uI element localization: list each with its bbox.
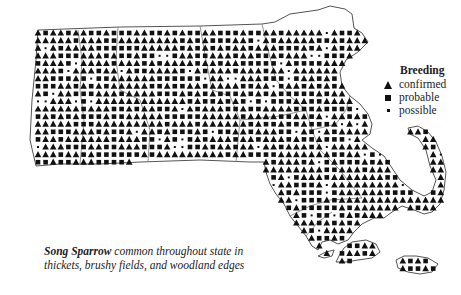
confirmed-marker — [248, 136, 255, 142]
confirmed-marker — [118, 98, 125, 104]
probable-marker — [195, 54, 200, 59]
possible-marker — [288, 78, 290, 80]
probable-marker — [195, 114, 200, 119]
confirmed-marker — [407, 197, 414, 203]
probable-marker — [119, 130, 124, 135]
confirmed-marker — [88, 105, 95, 111]
probable-marker — [294, 92, 299, 97]
confirmed-marker — [422, 197, 429, 203]
confirmed-marker — [73, 105, 80, 111]
confirmed-marker — [225, 60, 232, 66]
probable-marker — [127, 46, 132, 51]
confirmed-marker — [263, 143, 270, 149]
probable-marker — [119, 114, 124, 119]
confirmed-marker — [35, 67, 42, 73]
confirmed-marker — [286, 29, 293, 35]
confirmed-marker — [35, 128, 42, 134]
probable-marker — [226, 46, 231, 51]
confirmed-marker — [422, 204, 429, 210]
probable-marker — [317, 76, 322, 81]
confirmed-marker — [50, 121, 57, 127]
probable-marker — [309, 190, 314, 195]
probable-marker — [150, 145, 155, 150]
probable-marker — [317, 99, 322, 104]
probable-marker — [173, 54, 178, 59]
probable-marker — [142, 54, 147, 59]
probable-marker — [180, 84, 185, 89]
probable-marker — [119, 46, 124, 51]
probable-marker — [218, 38, 223, 43]
confirmed-marker — [316, 143, 323, 149]
confirmed-marker — [248, 75, 255, 81]
probable-marker — [112, 38, 117, 43]
confirmed-marker — [164, 128, 171, 134]
confirmed-marker — [88, 136, 95, 142]
confirmed-marker — [96, 98, 103, 104]
confirmed-marker — [103, 121, 110, 127]
confirmed-marker — [134, 75, 141, 81]
probable-marker — [309, 107, 314, 112]
confirmed-marker — [293, 29, 300, 35]
probable-marker — [309, 206, 314, 211]
confirmed-marker — [324, 98, 331, 104]
confirmed-marker — [172, 151, 179, 157]
probable-marker — [279, 76, 284, 81]
confirmed-marker — [400, 265, 407, 271]
probable-marker — [43, 92, 48, 97]
confirmed-marker — [346, 174, 353, 180]
possible-marker — [440, 154, 442, 156]
confirmed-marker — [202, 121, 209, 127]
confirmed-marker — [50, 67, 57, 73]
confirmed-marker — [286, 52, 293, 58]
confirmed-marker — [354, 143, 361, 149]
probable-marker — [150, 137, 155, 142]
probable-marker — [150, 54, 155, 59]
possible-marker — [326, 32, 328, 34]
confirmed-marker — [35, 75, 42, 81]
probable-marker — [188, 76, 193, 81]
confirmed-marker — [88, 67, 95, 73]
probable-marker — [256, 137, 261, 142]
confirmed-marker — [96, 143, 103, 149]
confirmed-marker — [354, 166, 361, 172]
probable-marker — [340, 152, 345, 157]
possible-marker — [189, 70, 191, 72]
confirmed-marker — [316, 45, 323, 51]
confirmed-marker — [240, 75, 247, 81]
probable-marker — [188, 114, 193, 119]
confirmed-marker — [210, 151, 217, 157]
confirmed-marker — [369, 181, 376, 187]
probable-marker — [211, 99, 216, 104]
confirmed-marker — [240, 105, 247, 111]
confirmed-marker — [164, 98, 171, 104]
confirmed-marker — [278, 174, 285, 180]
confirmed-marker — [58, 143, 65, 149]
probable-marker — [408, 266, 413, 271]
confirmed-marker — [111, 98, 118, 104]
probable-marker — [309, 92, 314, 97]
confirmed-marker — [35, 37, 42, 43]
confirmed-marker — [217, 75, 224, 81]
probable-marker — [309, 114, 314, 119]
legend-label: possible — [399, 104, 437, 117]
probable-marker — [279, 46, 284, 51]
probable-marker — [66, 130, 71, 135]
confirmed-marker — [369, 174, 376, 180]
probable-marker — [271, 99, 276, 104]
confirmed-marker — [286, 37, 293, 43]
probable-marker — [363, 251, 368, 256]
probable-marker — [294, 122, 299, 127]
confirmed-marker — [111, 67, 118, 73]
probable-marker — [43, 160, 48, 165]
confirmed-marker — [301, 219, 308, 225]
confirmed-marker — [293, 136, 300, 142]
confirmed-marker — [301, 121, 308, 127]
probable-marker — [157, 84, 162, 89]
confirmed-marker — [308, 37, 315, 43]
confirmed-marker — [80, 128, 87, 134]
confirmed-marker — [369, 250, 376, 256]
confirmed-marker — [50, 52, 57, 58]
possible-marker — [75, 100, 77, 102]
probable-marker — [332, 206, 337, 211]
confirmed-marker — [278, 121, 285, 127]
